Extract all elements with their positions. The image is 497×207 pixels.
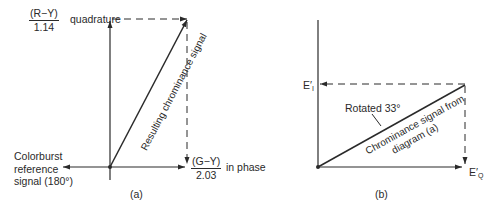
colorburst-line-1: Colorburst [14, 150, 73, 163]
eq-label: E′Q [469, 166, 483, 182]
colorburst-label: Colorburst reference signal (180°) [14, 150, 73, 188]
quadrature-denominator: 1.14 [34, 21, 54, 33]
rotation-leader-line [372, 114, 381, 126]
caption-b: (b) [375, 188, 388, 200]
inphase-suffix: in phase [226, 161, 266, 173]
quadrature-fraction: (R−Y) 1.14 [29, 8, 59, 33]
inphase-numerator: (G−Y) [191, 156, 221, 169]
colorburst-line-2: reference [14, 163, 73, 176]
rotated-label: Rotated 33° [345, 102, 401, 114]
quadrature-suffix: quadrature [70, 13, 121, 25]
phasor-diagrams [0, 0, 497, 207]
colorburst-line-3: signal (180°) [14, 175, 73, 188]
quadrature-numerator: (R−Y) [29, 8, 59, 21]
inphase-fraction: (G−Y) 2.03 [191, 156, 221, 181]
origin-dot-a [108, 165, 112, 169]
ei-sub: I [312, 85, 314, 92]
origin-dot-b [316, 165, 320, 169]
eq-sub: Q [478, 172, 483, 179]
caption-a: (a) [130, 188, 143, 200]
eq-main: E [469, 166, 476, 178]
ei-main: E [303, 79, 310, 91]
inphase-denominator: 2.03 [196, 169, 216, 181]
ei-label: E′I [303, 79, 314, 95]
